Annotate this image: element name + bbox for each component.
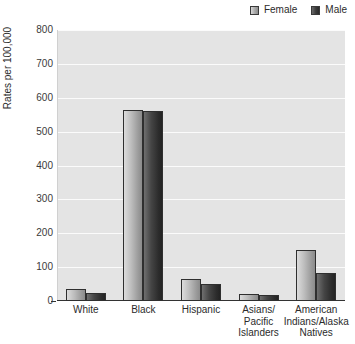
legend-label-female: Female <box>264 4 297 16</box>
bar-chart: Female Male Rates per 100,000 0100200300… <box>0 0 355 344</box>
y-tick-label: 400 <box>5 161 53 171</box>
bar-female[interactable] <box>123 110 143 301</box>
bar-male[interactable] <box>143 111 163 301</box>
x-axis-labels: WhiteBlackHispanicAsians/PacificIslander… <box>57 304 345 344</box>
bar-group <box>172 30 230 301</box>
bar-male[interactable] <box>201 284 221 301</box>
bar-female[interactable] <box>239 294 259 301</box>
y-axis-ticks: 0100200300400500600700800 <box>0 0 53 344</box>
legend-item-male: Male <box>311 4 347 16</box>
bar-group <box>115 30 173 301</box>
y-tick-label: 100 <box>5 262 53 272</box>
legend-swatch-female-icon <box>250 6 259 15</box>
chart-legend: Female Male <box>250 4 347 16</box>
y-tick-label: 600 <box>5 93 53 103</box>
y-tick-label: 200 <box>5 228 53 238</box>
y-tick-label: 700 <box>5 59 53 69</box>
bar-female[interactable] <box>66 289 86 301</box>
y-tick-label: 0 <box>5 296 53 306</box>
y-tick-mark <box>51 301 56 302</box>
bar-male[interactable] <box>259 295 279 301</box>
bar-male[interactable] <box>316 273 336 301</box>
bar-female[interactable] <box>296 250 316 301</box>
bar-male[interactable] <box>86 293 106 301</box>
legend-item-female: Female <box>250 4 297 16</box>
bar-group <box>287 30 345 301</box>
y-tick-label: 500 <box>5 127 53 137</box>
x-tick-label-line: Indians/Alaska <box>281 316 351 328</box>
x-tick-label-line: Natives <box>281 327 351 339</box>
y-tick-label: 800 <box>5 25 53 35</box>
bar-female[interactable] <box>181 279 201 301</box>
x-tick-label-line: American <box>281 304 351 316</box>
legend-swatch-male-icon <box>311 6 320 15</box>
bar-group <box>57 30 115 301</box>
bar-group <box>230 30 288 301</box>
legend-label-male: Male <box>325 4 347 16</box>
bar-series-container <box>57 30 345 301</box>
y-tick-label: 300 <box>5 194 53 204</box>
x-tick-label: AmericanIndians/AlaskaNatives <box>281 304 351 339</box>
